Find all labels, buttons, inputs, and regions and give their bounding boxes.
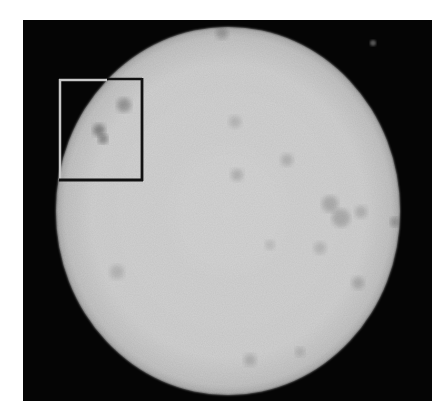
micrograph-figure <box>0 0 448 418</box>
debris-speck <box>370 40 376 46</box>
micrograph-canvas <box>0 0 448 418</box>
